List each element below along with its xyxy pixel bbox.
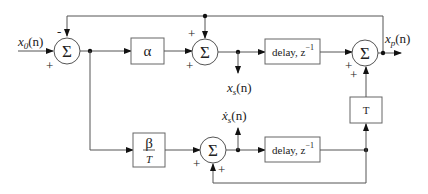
delay-block-1: delay, z−1 [265,39,320,64]
summer-2: Σ + + [186,26,218,73]
svg-text:+: + [188,26,195,41]
svg-text:Σ: Σ [208,141,218,160]
svg-text:Σ: Σ [360,44,370,63]
summer-4: Σ + + [193,137,226,177]
alpha-beta-filter-diagram: x0(n) Σ - + α Σ + + xs(n) delay, z−1 [0,0,428,194]
svg-text:+: + [218,162,225,177]
svg-text:+: + [186,58,193,73]
svg-text:+: + [350,67,357,82]
error-wires [80,49,133,150]
summer-1: Σ - + [46,24,80,73]
svg-text:α: α [144,43,152,59]
output-label-xp: xp(n) [384,31,410,48]
input-label-x0: x0(n) [17,34,43,51]
summer-3: Σ + + [345,40,378,82]
T-gain-block: T [350,97,382,123]
junction-dot [203,14,207,18]
delay-block-2: delay, z−1 [265,137,320,162]
output-label-xs: xs(n) [226,80,251,97]
beta-over-T-block: β T [133,133,165,167]
svg-text:+: + [46,58,53,73]
svg-text:T: T [146,153,153,165]
alpha-gain-block: α [131,38,164,64]
svg-text:-: - [57,24,61,39]
input-x0: x0(n) [17,34,53,51]
xs-wires [218,50,265,73]
svg-text:Σ: Σ [62,42,72,61]
xs-dot-wires [226,128,265,152]
svg-text:β: β [145,135,153,151]
top-feedback-wire [67,14,383,53]
svg-text:Σ: Σ [200,43,210,62]
output-label-xs-dot: ẋs(n) [221,108,246,125]
svg-text:T: T [363,104,370,116]
svg-text:+: + [193,156,200,171]
